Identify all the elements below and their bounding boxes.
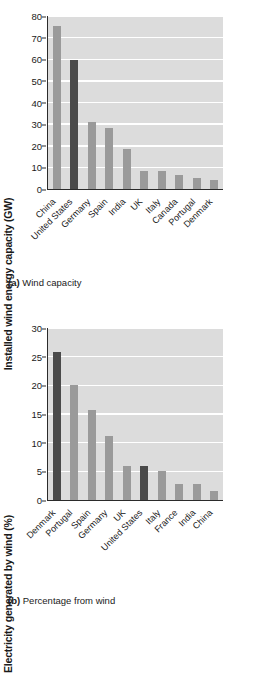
- y-axis-tick-mark: [42, 146, 46, 147]
- y-axis-tick-mark: [42, 328, 46, 329]
- plot-area: [47, 16, 223, 190]
- y-axis-tick: 70: [31, 32, 42, 43]
- figure-wind-capacity: Installed wind energy capacity (GW) 0102…: [0, 0, 255, 300]
- bar: [210, 180, 218, 189]
- caption-tag: (a): [8, 277, 20, 288]
- y-axis-tick-mark: [42, 81, 46, 82]
- y-axis-tick-value: 20: [31, 140, 42, 151]
- y-axis-tick: 25: [31, 351, 42, 362]
- y-axis-tick-labels: 051015202530: [16, 328, 42, 500]
- bar: [70, 385, 78, 500]
- y-axis-tick: 30: [31, 323, 42, 334]
- y-axis-tick-value: 15: [31, 409, 42, 420]
- bar: [158, 471, 166, 500]
- y-axis-tick-mark: [42, 59, 46, 60]
- y-axis-tick: 20: [31, 380, 42, 391]
- y-axis-tick: 10: [31, 162, 42, 173]
- y-axis-tick: 0: [37, 495, 42, 506]
- y-axis-tick-value: 10: [31, 162, 42, 173]
- bar: [105, 436, 113, 500]
- y-axis-tick-mark: [42, 167, 46, 168]
- y-axis-tick-mark: [42, 38, 46, 39]
- y-axis-tick: 5: [37, 466, 42, 477]
- y-axis-tick-value: 30: [31, 323, 42, 334]
- bar: [123, 149, 131, 189]
- bar: [158, 171, 166, 189]
- plot-area: [47, 328, 223, 501]
- y-axis-tick-value: 80: [31, 11, 42, 22]
- y-axis-tick-mark: [42, 471, 46, 472]
- caption-text: Percentage from wind: [23, 595, 115, 606]
- bar: [53, 352, 61, 500]
- bar: [53, 26, 61, 189]
- y-axis-tick: 0: [37, 184, 42, 195]
- bar: [175, 175, 183, 189]
- y-axis-tick: 10: [31, 437, 42, 448]
- bar: [88, 410, 96, 500]
- y-axis-tick-mark: [42, 385, 46, 386]
- y-axis-tick-mark: [42, 124, 46, 125]
- y-axis-tick: 80: [31, 11, 42, 22]
- y-axis-tick-mark: [42, 103, 46, 104]
- y-axis-tick-value: 20: [31, 380, 42, 391]
- bar-series: [48, 328, 223, 500]
- bar: [193, 484, 201, 500]
- y-axis-tick-mark: [42, 16, 46, 17]
- y-axis-tick: 40: [31, 97, 42, 108]
- bar: [193, 178, 201, 189]
- figure-caption: (a) Wind capacity: [8, 277, 81, 288]
- caption-tag: (b): [8, 595, 20, 606]
- bar: [140, 466, 148, 500]
- bar: [175, 484, 183, 500]
- bar: [70, 60, 78, 189]
- y-axis-tick-value: 50: [31, 75, 42, 86]
- y-axis-tick-value: 10: [31, 437, 42, 448]
- caption-text: Wind capacity: [22, 277, 81, 288]
- y-axis-tick-mark: [42, 500, 46, 501]
- y-axis-tick-value: 30: [31, 119, 42, 130]
- bar: [140, 171, 148, 189]
- y-axis-tick: 30: [31, 119, 42, 130]
- bar: [88, 122, 96, 189]
- y-axis-tick: 60: [31, 54, 42, 65]
- y-axis-tick: 50: [31, 75, 42, 86]
- y-axis-tick-mark: [42, 189, 46, 190]
- y-axis-tick-value: 70: [31, 32, 42, 43]
- y-axis-tick-value: 40: [31, 97, 42, 108]
- y-axis-tick: 20: [31, 140, 42, 151]
- y-axis-tick-mark: [42, 414, 46, 415]
- figure-caption: (b) Percentage from wind: [8, 595, 115, 606]
- bar: [123, 466, 131, 500]
- y-axis-tick-labels: 01020304050607080: [16, 16, 42, 189]
- y-axis-tick-value: 60: [31, 54, 42, 65]
- y-axis-tick-mark: [42, 443, 46, 444]
- y-axis-tick-mark: [42, 357, 46, 358]
- y-axis-tick-value: 25: [31, 351, 42, 362]
- bar: [210, 491, 218, 500]
- bar-series: [48, 16, 223, 189]
- bar: [105, 128, 113, 189]
- figure-percentage-from-wind: Electricity generated by wind (%) 051015…: [0, 310, 255, 619]
- y-axis-tick: 15: [31, 409, 42, 420]
